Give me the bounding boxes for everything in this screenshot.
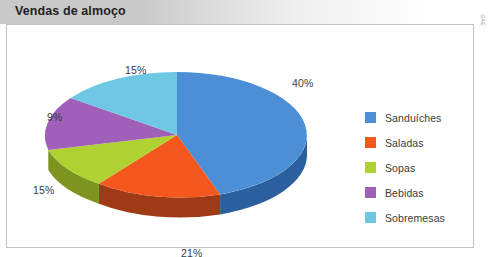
- legend-swatch-icon: [365, 137, 376, 148]
- source-credit: GAE: [480, 14, 486, 26]
- legend-label: Sanduíches: [385, 112, 441, 124]
- legend-swatch-icon: [365, 112, 376, 123]
- chart-header-bar: Vendas de almoço: [0, 0, 488, 24]
- legend-item-sobremesas[interactable]: Sobremesas: [365, 205, 485, 230]
- legend-swatch-icon: [365, 162, 376, 173]
- legend-label: Bebidas: [385, 187, 424, 199]
- legend-label: Saladas: [385, 137, 424, 149]
- pie-label-saladas: 21%: [181, 247, 203, 257]
- pie-chart-svg: [7, 25, 347, 247]
- legend-item-bebidas[interactable]: Bebidas: [365, 180, 485, 205]
- chart-card: 40% 21% 15% 9% 15% Sanduíches Saladas So…: [6, 24, 474, 248]
- page-title: Vendas de almoço: [15, 4, 126, 18]
- legend-item-sanduiches[interactable]: Sanduíches: [365, 105, 485, 130]
- legend-item-saladas[interactable]: Saladas: [365, 130, 485, 155]
- pie-label-sobremesas: 15%: [125, 64, 147, 76]
- legend-swatch-icon: [365, 212, 376, 223]
- chart-page: Vendas de almoço: [0, 0, 488, 257]
- legend-item-sopas[interactable]: Sopas: [365, 155, 485, 180]
- chart-legend: Sanduíches Saladas Sopas Bebidas Sobreme…: [365, 105, 485, 230]
- pie-label-sopas: 15%: [33, 184, 55, 196]
- legend-label: Sopas: [385, 162, 415, 174]
- legend-label: Sobremesas: [385, 212, 445, 224]
- pie-label-sanduiches: 40%: [292, 77, 314, 89]
- pie-chart-plot: 40% 21% 15% 9% 15%: [7, 25, 347, 247]
- pie-label-bebidas: 9%: [47, 111, 63, 123]
- legend-swatch-icon: [365, 187, 376, 198]
